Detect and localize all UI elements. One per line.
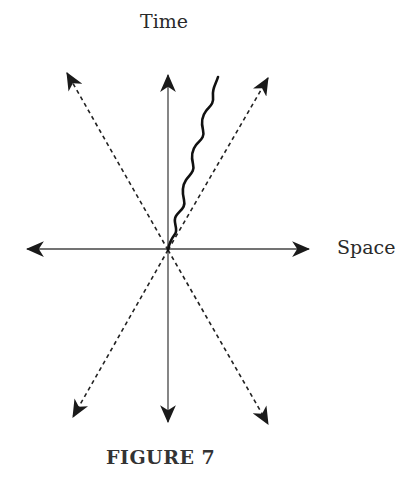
light-ray-upper-left (67, 73, 168, 250)
light-ray-lower-right (168, 250, 268, 424)
worldline (168, 77, 218, 250)
light-ray-lower-left (73, 250, 168, 417)
time-axis-label: Time (140, 10, 188, 32)
space-axis-label: Space (337, 236, 395, 258)
light-ray-upper-right (168, 78, 268, 250)
figure-caption: FIGURE 7 (106, 446, 215, 468)
